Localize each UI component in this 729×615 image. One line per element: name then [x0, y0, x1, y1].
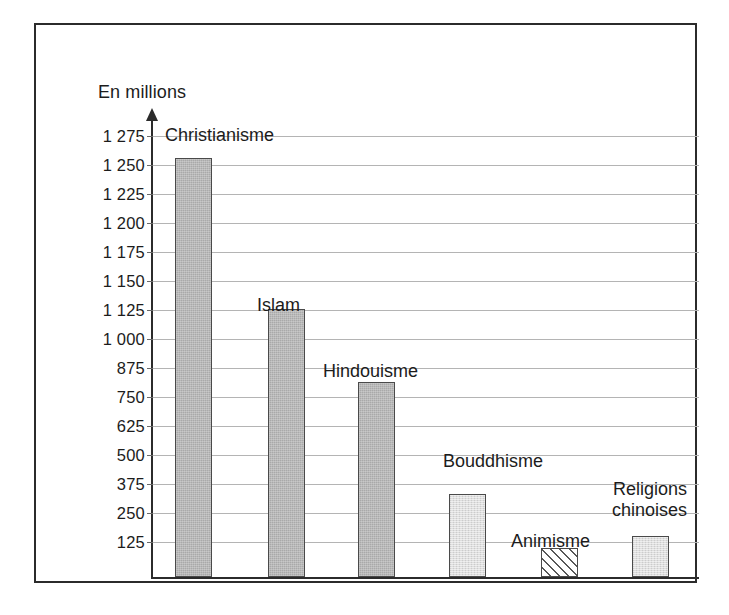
y-axis-tick-label: 250	[117, 503, 145, 522]
gridline	[153, 252, 699, 253]
bar-animisme	[541, 548, 578, 577]
tick-mark	[147, 426, 153, 427]
bar-label-islam: Islam	[257, 295, 300, 316]
tick-mark	[147, 165, 153, 166]
tick-mark	[147, 542, 153, 543]
y-axis-tick-label: 375	[117, 474, 145, 493]
gridline	[153, 397, 699, 398]
y-axis-tick-label: 1 125	[103, 300, 145, 319]
y-axis-tick-label: 1 275	[103, 126, 145, 145]
tick-mark	[147, 513, 153, 514]
bar-label-line: chinoises	[612, 500, 687, 521]
figure-frame: En millions 1 2751 2501 2251 2001 1751 1…	[34, 23, 697, 583]
bar-bouddhisme	[449, 494, 486, 577]
y-axis-tick-label: 1 175	[103, 242, 145, 261]
bar-label-animisme: Animisme	[511, 531, 590, 552]
gridline	[153, 194, 699, 195]
bar-label-bouddhisme: Bouddhisme	[443, 451, 543, 472]
gridline	[153, 223, 699, 224]
tick-mark	[147, 368, 153, 369]
bar-label-line: Hindouisme	[323, 361, 418, 382]
bar-christianisme	[175, 158, 212, 577]
bar-label-line: Islam	[257, 295, 300, 316]
y-axis-tick-label: 125	[117, 532, 145, 551]
y-axis-tick-label: 1 225	[103, 184, 145, 203]
plot-area: ChristianismeIslamHindouismeBouddhismeAn…	[153, 135, 699, 577]
bar-label-line: Religions	[612, 479, 687, 500]
y-axis-tick-label: 1 000	[103, 329, 145, 348]
gridline	[153, 426, 699, 427]
bar-islam	[268, 309, 305, 577]
y-axis-arrow-icon	[146, 108, 158, 121]
y-axis-tick-label: 1 200	[103, 213, 145, 232]
gridline	[153, 368, 699, 369]
gridline	[153, 165, 699, 166]
bar-label-christianisme: Christianisme	[165, 125, 274, 146]
gridline	[153, 339, 699, 340]
bar-label-line: Christianisme	[165, 125, 274, 146]
y-axis-caption: En millions	[98, 82, 186, 103]
x-axis-baseline	[151, 577, 699, 579]
tick-mark	[147, 455, 153, 456]
bar-hindouisme	[358, 382, 395, 577]
bar-religions-chinoises	[632, 536, 669, 578]
y-axis-tick-labels: 1 2751 2501 2251 2001 1751 1501 1251 000…	[83, 135, 145, 577]
tick-mark	[147, 281, 153, 282]
tick-mark	[147, 194, 153, 195]
y-axis-tick-label: 1 150	[103, 271, 145, 290]
tick-mark	[147, 310, 153, 311]
y-axis-tick-label: 875	[117, 358, 145, 377]
bar-label-line: Bouddhisme	[443, 451, 543, 472]
tick-mark	[147, 223, 153, 224]
gridline	[153, 455, 699, 456]
tick-mark	[147, 252, 153, 253]
tick-mark	[147, 339, 153, 340]
tick-mark	[147, 136, 153, 137]
y-axis-tick-label: 1 250	[103, 155, 145, 174]
gridline	[153, 542, 699, 543]
y-axis-tick-label: 625	[117, 416, 145, 435]
y-axis-tick-label: 750	[117, 387, 145, 406]
tick-mark	[147, 484, 153, 485]
tick-mark	[147, 397, 153, 398]
bar-label-hindouisme: Hindouisme	[323, 361, 418, 382]
bar-label-line: Animisme	[511, 531, 590, 552]
gridline	[153, 310, 699, 311]
y-axis-tick-label: 500	[117, 445, 145, 464]
bar-label-religions-chinoises: Religionschinoises	[612, 479, 687, 521]
gridline	[153, 281, 699, 282]
